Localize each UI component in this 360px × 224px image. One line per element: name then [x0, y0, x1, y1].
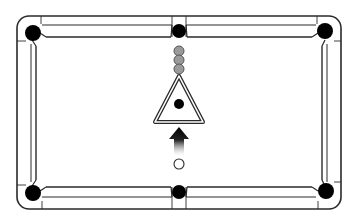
top-center-pocket	[172, 24, 186, 38]
bottom-right-pocket	[318, 183, 334, 199]
object-ball-3	[174, 64, 184, 74]
pool-table-diagram: Pool table rack setup	[0, 0, 360, 224]
table-outer-border	[17, 16, 341, 209]
top-left-pocket	[25, 25, 41, 41]
bottom-center-pocket	[172, 185, 186, 199]
top-right-pocket	[317, 23, 333, 39]
cue-ball	[174, 159, 184, 169]
eight-ball	[174, 99, 184, 109]
pool-table	[17, 16, 341, 209]
bottom-left-pocket	[25, 185, 41, 201]
